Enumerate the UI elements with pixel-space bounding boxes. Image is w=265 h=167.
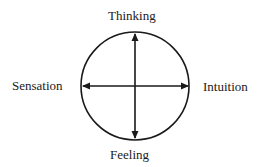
label-intuition: Intuition <box>203 80 248 93</box>
label-sensation: Sensation <box>12 79 63 92</box>
label-feeling: Feeling <box>110 148 149 161</box>
label-thinking: Thinking <box>108 9 156 22</box>
